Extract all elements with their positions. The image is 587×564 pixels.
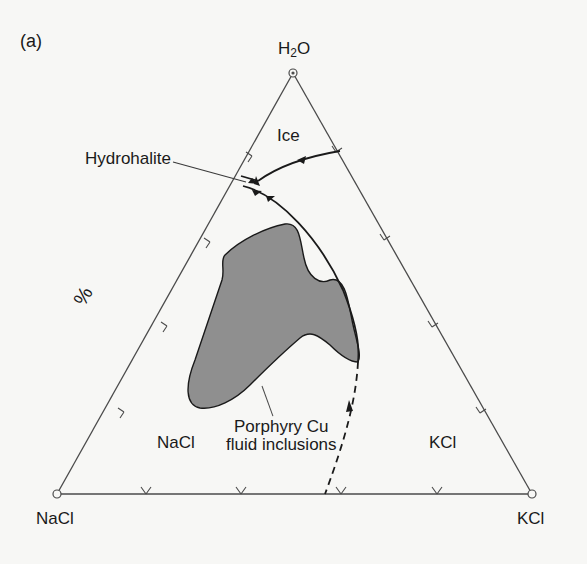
vertex-marker-nacl [53,490,61,498]
porphyry-inclusion-field [188,224,359,408]
hydrohalite-leader [173,162,246,182]
dashed-boundary [325,362,358,494]
annotation-leader [262,386,273,416]
vertex-marker-kcl [528,490,536,498]
ternary-diagram [0,0,587,564]
